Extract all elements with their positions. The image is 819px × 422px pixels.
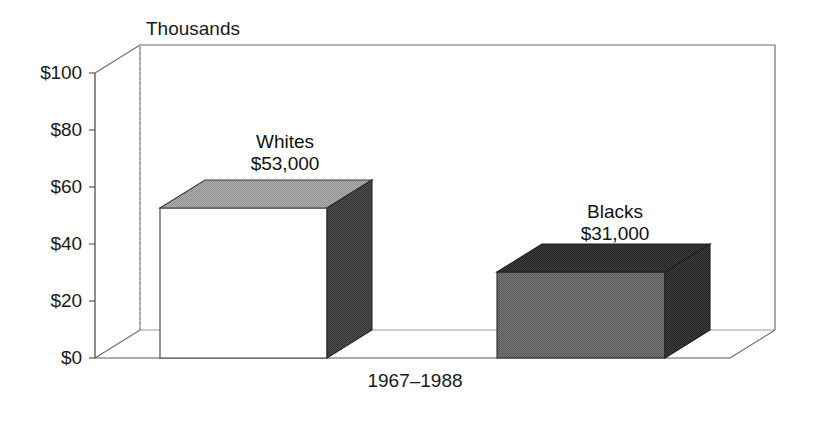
y-axis — [89, 45, 140, 358]
bar-whites-side-face — [327, 180, 372, 358]
y-tick-label-100: $100 — [10, 62, 82, 84]
bar-callout-blacks-value: $31,000 — [535, 223, 695, 245]
x-axis-label: 1967–1988 — [325, 370, 505, 392]
bar-callout-whites-name: Whites — [205, 131, 365, 153]
y-tick-label-60: $60 — [10, 176, 82, 198]
bar-callout-whites: Whites $53,000 — [205, 131, 365, 175]
bar-blacks[interactable] — [497, 244, 710, 358]
chart-plot-area — [0, 0, 819, 422]
y-tick-label-80: $80 — [10, 119, 82, 141]
y-axis-unit-label: Thousands — [146, 18, 240, 40]
bar-blacks-front-face — [497, 272, 665, 358]
chart-container: $100 $80 $60 $40 $20 $0 Thousands Whites… — [0, 0, 819, 422]
bar-callout-whites-value: $53,000 — [205, 153, 365, 175]
y-tick-label-40: $40 — [10, 233, 82, 255]
bar-callout-blacks: Blacks $31,000 — [535, 201, 695, 245]
bar-whites[interactable] — [160, 180, 372, 358]
y-tick-label-0: $0 — [10, 347, 82, 369]
bar-callout-blacks-name: Blacks — [535, 201, 695, 223]
bar-whites-front-face — [160, 208, 327, 358]
y-tick-label-20: $20 — [10, 290, 82, 312]
